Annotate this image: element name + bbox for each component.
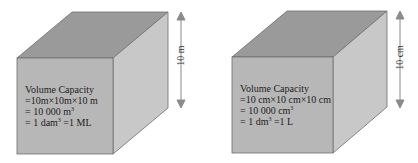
cube-2	[232, 11, 404, 153]
cube-1-line2-exponent: 3	[71, 106, 74, 112]
cube-2-line1: =10 cm×10 cm×10 cm	[240, 94, 331, 105]
cube-2-line3-suffix: =1 L	[271, 116, 293, 127]
cube-1-line2: = 10 000 m3	[25, 106, 98, 117]
cube-1-dimension-label: 10 m	[175, 41, 186, 71]
cube-1-volume-text: Volume Capacity =10m×10m×10 m = 10 000 m…	[25, 84, 98, 128]
cube-1-line3: = 1 dam3 =1 ML	[25, 117, 98, 128]
cube-2-dimension-label: 10 cm	[394, 41, 405, 75]
cube-2-title: Volume Capacity	[240, 83, 331, 94]
cube-2-line3: = 1 dm3 =1 L	[240, 116, 331, 127]
cubes-diagram	[0, 0, 418, 163]
cube-1-line2-text: = 10 000 m	[25, 106, 71, 117]
cube-1-line1: =10m×10m×10 m	[25, 95, 98, 106]
cube-1-title: Volume Capacity	[25, 84, 98, 95]
cube-1	[17, 12, 185, 154]
cube-2-line2: = 10 000 cm3	[240, 105, 331, 116]
cube-2-line2-exponent: 3	[290, 105, 293, 111]
cube-1-line3-suffix: =1 ML	[61, 117, 92, 128]
cube-2-line3-text: = 1 dm	[240, 116, 268, 127]
cube-2-line2-text: = 10 000 cm	[240, 105, 290, 116]
cube-1-line3-text: = 1 dam	[25, 117, 58, 128]
cube-2-volume-text: Volume Capacity =10 cm×10 cm×10 cm = 10 …	[240, 83, 331, 127]
